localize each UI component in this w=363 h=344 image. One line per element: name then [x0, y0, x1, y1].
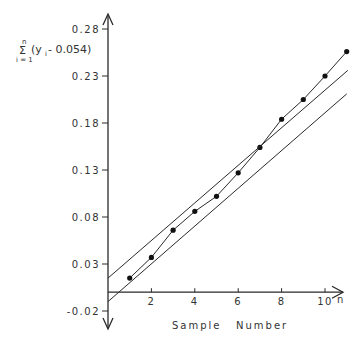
y-label-subscript: i — [45, 50, 47, 58]
data-point-marker — [192, 209, 197, 214]
data-point-marker — [236, 170, 241, 175]
data-point-marker — [214, 194, 219, 199]
y-tick-label: 0.03 — [72, 259, 100, 270]
x-tick-label: 2 — [147, 296, 155, 307]
x-tick-label: 4 — [191, 296, 199, 307]
y-tick-label: -0.02 — [67, 306, 100, 317]
data-point-marker — [279, 117, 284, 122]
data-point-marker — [127, 276, 132, 281]
x-tick-label: 8 — [278, 296, 286, 307]
x-axis-title-word1: Sample — [172, 320, 222, 331]
lower-control-line-line — [108, 94, 347, 302]
y-tick-label: 0.28 — [72, 24, 100, 35]
y-tick-label: 0.08 — [72, 212, 100, 223]
y-tick-label: 0.13 — [72, 165, 100, 176]
x-axis-symbol: n — [337, 294, 345, 305]
data-point-marker — [322, 73, 327, 78]
x-tick-label: 6 — [234, 296, 242, 307]
y-label-lower-limit: i = 1 — [16, 56, 33, 64]
data-point-marker — [171, 228, 176, 233]
y-tick-label: 0.18 — [72, 118, 100, 129]
y-label-expr-open: (y — [31, 43, 42, 56]
x-axis-title-word2: Number — [236, 320, 288, 331]
data-point-marker — [149, 255, 154, 260]
cusum-chart: 0.280.230.180.130.080.03-0.02246810nSamp… — [0, 0, 363, 344]
data-point-marker — [301, 97, 306, 102]
chart-figure: 0.280.230.180.130.080.03-0.02246810nSamp… — [0, 0, 363, 344]
x-tick-label: 10 — [317, 296, 333, 307]
data-point-marker — [257, 145, 262, 150]
upper-control-line-line — [108, 70, 348, 278]
y-label-expr-close: - 0.054) — [48, 43, 91, 56]
y-tick-label: 0.23 — [72, 71, 100, 82]
data-point-marker — [344, 49, 349, 54]
